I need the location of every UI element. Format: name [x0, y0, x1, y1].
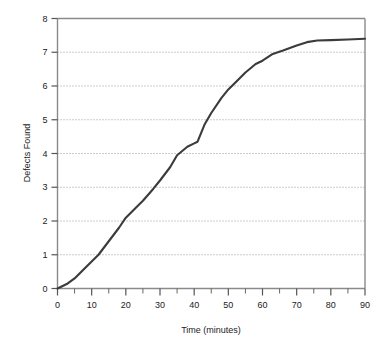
- y-axis-title: Defects Found: [22, 124, 32, 183]
- x-tick-label: 50: [223, 300, 233, 310]
- y-tick-label: 5: [42, 115, 47, 125]
- y-tick-label: 8: [42, 14, 47, 24]
- x-tick-label: 80: [326, 300, 336, 310]
- y-tick-label: 2: [42, 216, 47, 226]
- x-tick-label: 90: [360, 300, 370, 310]
- y-tick-label: 3: [42, 182, 47, 192]
- y-tick-label: 0: [42, 284, 47, 294]
- x-tick-label: 10: [87, 300, 97, 310]
- y-tick-label: 7: [42, 47, 47, 57]
- x-tick-label: 20: [121, 300, 131, 310]
- y-tick-label: 4: [42, 149, 47, 159]
- x-tick-label: 60: [257, 300, 267, 310]
- x-tick-label: 30: [155, 300, 165, 310]
- chart-container: 0102030405060708090 012345678 Time (minu…: [0, 0, 385, 345]
- x-tick-label: 0: [55, 300, 60, 310]
- x-tick-label: 40: [189, 300, 199, 310]
- x-axis-title: Time (minutes): [181, 325, 241, 335]
- y-axis-tick-labels: 012345678: [42, 14, 47, 294]
- y-tick-label: 6: [42, 81, 47, 91]
- defects-found-line-chart: 0102030405060708090 012345678 Time (minu…: [0, 0, 385, 345]
- x-tick-label: 70: [292, 300, 302, 310]
- y-tick-label: 1: [42, 250, 47, 260]
